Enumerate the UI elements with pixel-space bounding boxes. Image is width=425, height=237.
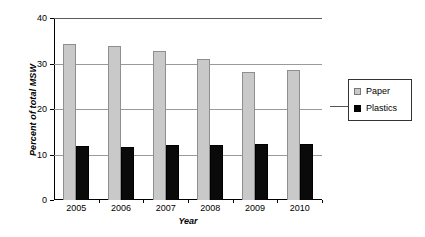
y-tick-label: 20 <box>17 104 47 114</box>
bar-group <box>242 18 268 200</box>
y-tick-label: 0 <box>17 195 47 205</box>
bar-plastics-2006 <box>121 147 134 200</box>
x-tick-label-2010: 2010 <box>278 203 322 213</box>
bar-paper-2005 <box>63 44 76 200</box>
legend-swatch-plastics-icon <box>354 105 361 112</box>
legend-label-paper: Paper <box>366 86 390 96</box>
bar-paper-2010 <box>287 70 300 200</box>
bar-plastics-2009 <box>255 144 268 200</box>
bar-paper-2008 <box>197 59 210 200</box>
y-tick-mark <box>50 200 54 201</box>
legend-swatch-paper-icon <box>354 88 361 95</box>
bar-group <box>63 18 89 200</box>
bar-paper-2009 <box>242 72 255 200</box>
bar-group <box>287 18 313 200</box>
legend-connector-line <box>330 106 348 107</box>
bar-paper-2006 <box>108 46 121 200</box>
y-tick-label: 40 <box>17 13 47 23</box>
x-tick-mark <box>322 200 323 203</box>
x-tick-label-2005: 2005 <box>54 203 98 213</box>
bar-plastics-2007 <box>166 145 179 200</box>
y-tick-label: 30 <box>17 59 47 69</box>
x-tick-label-2006: 2006 <box>99 203 143 213</box>
legend: Paper Plastics <box>348 79 412 121</box>
y-tick-label: 10 <box>17 150 47 160</box>
bar-chart: Percent of total MSW 010203040 200520062… <box>0 0 425 237</box>
bar-plastics-2008 <box>210 145 223 200</box>
bar-group <box>153 18 179 200</box>
bars-layer <box>54 18 322 200</box>
x-tick-label-2007: 2007 <box>144 203 188 213</box>
bar-plastics-2005 <box>76 146 89 200</box>
bar-plastics-2010 <box>300 144 313 200</box>
legend-entry-plastics: Plastics <box>354 103 397 113</box>
legend-label-plastics: Plastics <box>366 103 397 113</box>
x-tick-label-2008: 2008 <box>188 203 232 213</box>
x-axis-title: Year <box>54 216 322 226</box>
bar-group <box>108 18 134 200</box>
legend-entry-paper: Paper <box>354 86 390 96</box>
bar-group <box>197 18 223 200</box>
bar-paper-2007 <box>153 51 166 200</box>
x-tick-label-2009: 2009 <box>233 203 277 213</box>
